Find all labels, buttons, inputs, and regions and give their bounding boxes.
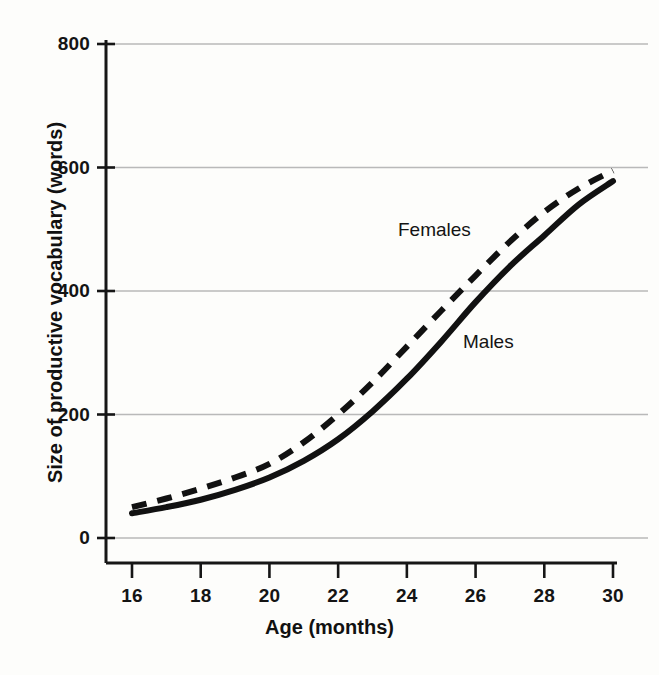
females-line <box>132 171 613 508</box>
series-label-males: Males <box>463 331 514 353</box>
x-tick-label: 30 <box>602 585 624 607</box>
y-tick-label: 800 <box>20 33 90 55</box>
x-tick-label: 22 <box>327 585 349 607</box>
x-tick-label: 16 <box>121 585 143 607</box>
x-tick-label: 26 <box>465 585 487 607</box>
males-line <box>132 181 613 513</box>
x-tick-mark-group <box>132 563 613 578</box>
x-tick-label: 24 <box>396 585 418 607</box>
y-tick-label: 0 <box>20 527 90 549</box>
x-axis-title: Age (months) <box>0 616 659 639</box>
series-label-females: Females <box>398 219 471 241</box>
x-tick-label: 28 <box>534 585 556 607</box>
vocabulary-growth-chart: 8006004002000 1618202224262830 Size of p… <box>0 0 659 675</box>
axis-line-group <box>106 40 617 563</box>
y-axis-title: Size of productive vocabulary (words) <box>44 88 67 518</box>
x-tick-label: 18 <box>190 585 212 607</box>
chart-plot-area <box>0 0 659 675</box>
x-tick-label: 20 <box>259 585 281 607</box>
gridline-group <box>106 44 648 538</box>
